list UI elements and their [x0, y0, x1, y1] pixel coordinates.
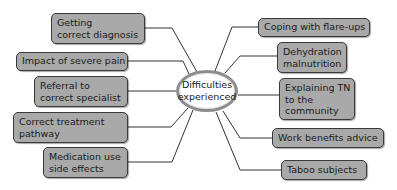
- node-dehydration-malnutrition: Dehydration malnutrition: [277, 42, 347, 73]
- link-dehydration: [225, 56, 277, 73]
- node-coping-with-flare-ups: Coping with flare-ups: [258, 18, 370, 37]
- node-text: correct specialist: [40, 92, 122, 104]
- node-text: correct diagnosis: [57, 29, 139, 41]
- node-text: Getting: [57, 17, 139, 29]
- node-work-benefits-advice: Work benefits advice: [272, 128, 384, 148]
- central-topic-line2: experienced: [178, 91, 237, 103]
- node-text: Referral to: [40, 80, 122, 92]
- link-getting-diagnosis: [144, 28, 197, 72]
- link-flare-ups: [215, 27, 258, 71]
- node-medication-side-effects: Medication use side effects: [43, 147, 128, 178]
- node-taboo-subjects: Taboo subjects: [281, 160, 367, 180]
- node-getting-correct-diagnosis: Getting correct diagnosis: [51, 13, 145, 44]
- node-text: malnutrition: [283, 58, 341, 70]
- node-text: Dehydration: [283, 46, 341, 58]
- node-text: Work benefits advice: [278, 132, 378, 144]
- central-topic-node: Difficulties experienced: [176, 70, 238, 112]
- node-text: Impact of severe pain: [22, 55, 122, 67]
- node-referral-to-specialist: Referral to correct specialist: [34, 76, 128, 107]
- node-text: pathway: [19, 128, 122, 140]
- node-text: Taboo subjects: [287, 164, 361, 176]
- node-text: Explaining TN: [285, 82, 349, 94]
- node-text: community: [285, 105, 349, 117]
- link-severe-pain: [128, 61, 190, 76]
- node-correct-treatment-pathway: Correct treatment pathway: [13, 112, 128, 143]
- node-text: Medication use: [49, 151, 122, 163]
- link-work-benefits: [223, 111, 272, 138]
- link-medication: [128, 110, 193, 162]
- node-impact-of-severe-pain: Impact of severe pain: [16, 52, 128, 71]
- node-text: to the: [285, 94, 349, 106]
- link-treatment-pathway: [128, 108, 188, 127]
- central-topic-line1: Difficulties: [182, 79, 232, 91]
- node-text: side effects: [49, 163, 122, 175]
- node-text: Coping with flare-ups: [264, 21, 364, 33]
- node-text: Correct treatment: [19, 116, 122, 128]
- node-explaining-tn-to-community: Explaining TN to the community: [279, 78, 355, 120]
